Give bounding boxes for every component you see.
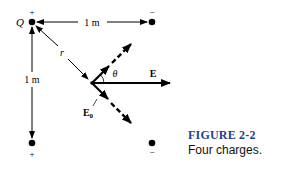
- lower-field-vector: [92, 83, 108, 99]
- sign-bottom-right: −: [149, 147, 154, 157]
- e0-label: E0: [83, 107, 94, 120]
- theta-arc: [101, 75, 105, 84]
- figure-caption: FIGURE 2-2 Four charges.: [188, 128, 262, 158]
- q-label: Q: [16, 16, 24, 28]
- lower-field-vector-dashed: [111, 103, 131, 123]
- sign-q: +: [29, 7, 34, 17]
- charge-bottom-left: [29, 140, 36, 147]
- theta-label: θ: [113, 68, 118, 79]
- r-dimension-up: [36, 26, 58, 46]
- charge-q: [29, 19, 36, 26]
- charge-bottom-right: [149, 140, 156, 147]
- e-label: E: [150, 68, 157, 79]
- sign-top-right: −: [149, 7, 154, 17]
- e0-leader: [93, 99, 97, 106]
- sign-bottom-left: +: [29, 149, 34, 159]
- charge-top-right: [149, 19, 156, 26]
- caption-title: FIGURE 2-2: [188, 128, 262, 142]
- left-distance-label: 1 m: [24, 74, 40, 85]
- r-label: r: [60, 47, 64, 58]
- upper-field-vector-dashed: [112, 44, 131, 63]
- top-distance-label: 1 m: [84, 17, 100, 28]
- caption-text: Four charges.: [188, 142, 262, 158]
- r-dimension-down: [68, 59, 88, 79]
